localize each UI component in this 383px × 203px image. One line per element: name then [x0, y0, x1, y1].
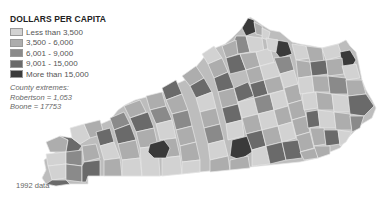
- data-year-footnote: 1992 data: [16, 181, 49, 190]
- county: [306, 110, 320, 128]
- county: [182, 160, 200, 174]
- county: [334, 112, 352, 130]
- county: [312, 76, 330, 92]
- county: [180, 142, 200, 162]
- county: [302, 92, 318, 110]
- kentucky-county-map: [0, 0, 383, 203]
- county: [332, 94, 350, 112]
- county: [298, 76, 314, 94]
- county: [82, 160, 100, 182]
- county: [326, 58, 344, 76]
- county: [104, 158, 122, 176]
- county: [66, 150, 82, 166]
- county: [282, 140, 302, 160]
- county: [266, 38, 278, 52]
- county: [346, 80, 366, 96]
- county: [338, 130, 352, 146]
- county: [162, 156, 182, 176]
- county: [46, 152, 66, 166]
- county: [316, 92, 334, 110]
- county: [226, 120, 244, 140]
- county: [296, 60, 312, 78]
- county: [318, 110, 336, 128]
- county: [310, 60, 328, 76]
- county: [66, 164, 82, 182]
- county: [156, 120, 176, 140]
- county: [324, 130, 340, 146]
- county: [122, 158, 142, 176]
- county: [118, 140, 140, 160]
- county: [328, 76, 348, 94]
